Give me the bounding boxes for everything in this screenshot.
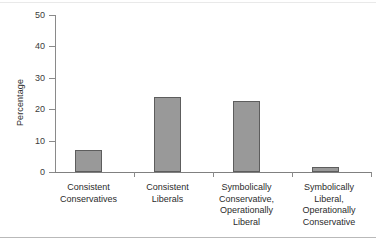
bottom-divider [0,237,376,238]
bar-symbolically-liberal-operationally-conservative[interactable] [312,167,339,172]
x-tick-mark-4 [371,172,372,177]
bar-chart-figure: Percentage 50 40 30 20 10 0 Consistent C… [0,0,376,244]
y-axis-label-text: Percentage [15,79,25,126]
x-tick-mark-1 [134,172,135,177]
y-tick-label-0: 0 [5,168,45,177]
x-tick-mark-2 [213,172,214,177]
y-tick-label-30: 30 [5,74,45,83]
top-divider [0,2,376,3]
y-tick-label-20: 20 [5,105,45,114]
x-category-label-2: Symbolically Conservative, Operationally… [207,182,286,228]
y-axis-line [55,15,56,173]
x-category-label-1: Consistent Liberals [128,182,207,205]
x-category-label-0: Consistent Conservatives [49,182,128,205]
y-tick-label-40: 40 [5,42,45,51]
bar-consistent-liberals[interactable] [154,97,181,172]
bar-symbolically-conservative-operationally-liberal[interactable] [233,101,260,172]
x-tick-mark-3 [292,172,293,177]
bar-consistent-conservatives[interactable] [75,150,102,172]
x-category-label-3: Symbolically Liberal, Operationally Cons… [286,182,372,228]
y-tick-label-10: 10 [5,137,45,146]
y-tick-label-50: 50 [5,11,45,20]
y-axis-label: Percentage [9,15,19,62]
